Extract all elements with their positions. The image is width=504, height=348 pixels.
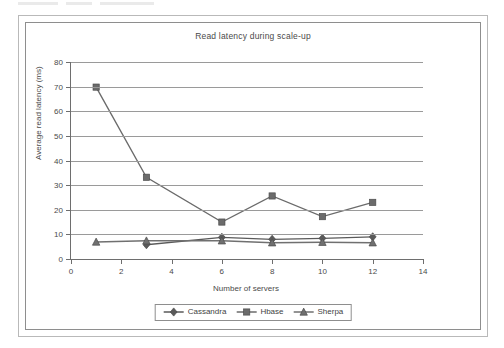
x-axis-tick-label: 10: [318, 267, 327, 276]
y-gridline: [71, 210, 423, 211]
data-point-marker: [370, 199, 376, 205]
x-axis-tick-label: 14: [419, 267, 428, 276]
series-line: [96, 241, 373, 243]
x-axis-tick: [322, 259, 323, 264]
x-axis-tick: [272, 259, 273, 264]
data-point-marker: [170, 308, 177, 316]
x-axis-tick: [172, 259, 173, 264]
y-gridline: [71, 111, 423, 112]
y-axis-tick-label: 40: [54, 156, 63, 165]
x-axis-tick: [222, 259, 223, 264]
y-gridline: [71, 234, 423, 235]
legend-item-cassandra[interactable]: Cassandra: [163, 307, 227, 317]
y-axis-tick: [66, 161, 71, 162]
x-axis-tick-label: 2: [119, 267, 123, 276]
x-axis-tick: [423, 259, 424, 264]
x-axis-tick-label: 6: [220, 267, 224, 276]
data-point-marker: [219, 219, 225, 225]
legend-item-hbase[interactable]: Hbase: [235, 307, 283, 317]
x-axis-tick-label: 8: [270, 267, 274, 276]
y-axis-tick-label: 70: [54, 82, 63, 91]
y-axis-tick: [66, 136, 71, 137]
y-axis-tick: [66, 234, 71, 235]
x-axis-tick-label: 0: [69, 267, 73, 276]
legend-label: Hbase: [260, 308, 283, 316]
y-axis-tick-label: 50: [54, 131, 63, 140]
y-axis-tick: [66, 185, 71, 186]
data-point-marker: [243, 309, 249, 315]
y-axis-tick: [66, 210, 71, 211]
y-axis-tick-label: 80: [54, 58, 63, 67]
x-axis-tick: [121, 259, 122, 264]
y-axis-tick: [66, 87, 71, 88]
legend-label: Cassandra: [188, 308, 227, 316]
y-gridline: [71, 185, 423, 186]
data-point-marker: [269, 193, 275, 199]
square-marker-icon: [235, 307, 257, 317]
x-axis-tick-label: 12: [368, 267, 377, 276]
y-gridline: [71, 161, 423, 162]
y-gridline: [71, 62, 423, 63]
plot-wrapper: Average read latency (ms) 01020304050607…: [26, 23, 480, 329]
y-axis-tick-label: 60: [54, 107, 63, 116]
y-axis-tick-label: 20: [54, 205, 63, 214]
chart-legend: CassandraHbaseSherpa: [155, 304, 352, 321]
diamond-marker-icon: [163, 307, 185, 317]
legend-item-sherpa[interactable]: Sherpa: [293, 307, 344, 317]
y-axis-title: Average read latency (ms): [34, 66, 43, 160]
y-axis-tick: [66, 111, 71, 112]
plot-area: 0102030405060708002468101214: [70, 62, 423, 260]
legend-label: Sherpa: [318, 308, 344, 316]
triangle-marker-icon: [293, 307, 315, 317]
data-point-marker: [143, 174, 149, 180]
chart-inner-border: Read latency during scale-up Average rea…: [25, 22, 481, 330]
y-gridline: [71, 136, 423, 137]
y-gridline: [71, 87, 423, 88]
series-line: [96, 87, 373, 222]
y-axis-tick: [66, 62, 71, 63]
y-axis-tick-label: 0: [59, 255, 63, 264]
x-axis-tick: [373, 259, 374, 264]
x-axis-title: Number of servers: [70, 284, 422, 293]
x-axis-tick-label: 4: [169, 267, 173, 276]
x-axis-tick: [71, 259, 72, 264]
y-axis-tick-label: 10: [54, 230, 63, 239]
data-point-marker: [319, 214, 325, 220]
chart-outer-border: Read latency during scale-up Average rea…: [18, 15, 488, 337]
y-axis-tick-label: 30: [54, 181, 63, 190]
scan-artifact: [0, 0, 504, 14]
